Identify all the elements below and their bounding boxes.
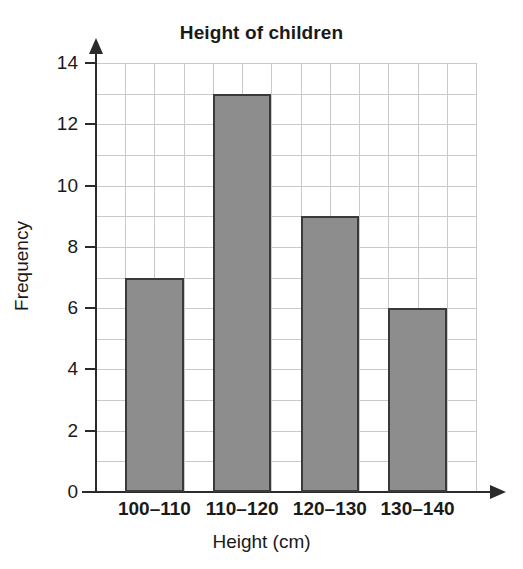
y-tick-label: 2 <box>38 421 78 440</box>
bar <box>125 278 183 493</box>
y-tick-mark <box>85 307 96 309</box>
chart-title: Height of children <box>0 22 523 44</box>
y-axis-arrow-icon <box>89 38 103 54</box>
y-tick-mark <box>85 491 96 493</box>
y-tick-label: 0 <box>38 482 78 501</box>
gridline-horizontal <box>96 94 476 95</box>
y-axis-tick-labels: 02468101214 <box>30 0 78 569</box>
gridline-horizontal <box>96 155 476 156</box>
gridline-horizontal <box>96 63 476 64</box>
y-tick-mark <box>85 123 96 125</box>
gridline-vertical <box>184 63 185 492</box>
gridline-horizontal <box>96 247 476 248</box>
y-tick-mark <box>85 185 96 187</box>
y-tick-label: 10 <box>38 176 78 195</box>
y-tick-label: 12 <box>38 114 78 133</box>
y-tick-label: 14 <box>38 53 78 72</box>
y-tick-label: 4 <box>38 359 78 378</box>
gridline-horizontal <box>96 124 476 125</box>
gridline-vertical <box>271 63 272 492</box>
y-tick-mark <box>85 430 96 432</box>
gridline-vertical <box>359 63 360 492</box>
x-axis-title: Height (cm) <box>0 531 523 553</box>
y-tick-label: 8 <box>38 237 78 256</box>
bar <box>388 308 446 492</box>
x-tick-label: 130–140 <box>363 498 473 520</box>
y-axis-line <box>95 52 97 493</box>
chart-figure: Height of children Frequency 02468101214… <box>0 0 523 569</box>
y-tick-label: 6 <box>38 298 78 317</box>
y-tick-mark <box>85 246 96 248</box>
gridline-horizontal <box>96 216 476 217</box>
gridline-vertical <box>476 63 477 492</box>
bar <box>301 216 359 492</box>
gridline-vertical <box>447 63 448 492</box>
y-tick-mark <box>85 368 96 370</box>
x-axis-arrow-icon <box>490 485 506 499</box>
gridline-horizontal <box>96 186 476 187</box>
bar <box>213 94 271 492</box>
y-tick-mark <box>85 62 96 64</box>
